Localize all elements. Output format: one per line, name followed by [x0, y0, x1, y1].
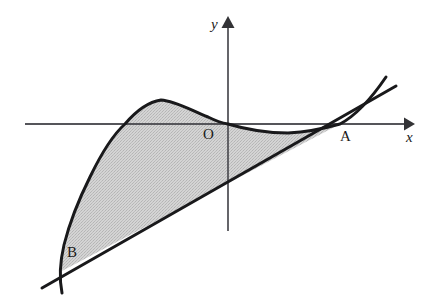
x-axis-label: x	[406, 130, 413, 145]
math-figure: y x O A B	[0, 0, 429, 307]
point-label-b: B	[67, 245, 77, 260]
point-label-a: A	[340, 129, 351, 144]
y-axis-label: y	[211, 17, 218, 32]
y-axis-arrowhead	[222, 16, 235, 28]
shaded-region	[60, 100, 340, 272]
diagram-canvas	[0, 0, 429, 307]
origin-label: O	[203, 127, 214, 142]
